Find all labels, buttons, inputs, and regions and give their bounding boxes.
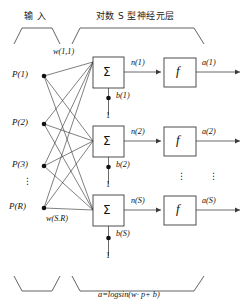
activation-symbol-1: f	[176, 64, 180, 77]
diagram-canvas	[0, 0, 247, 307]
input-label-p1: P(1)	[12, 70, 28, 79]
sum-symbol-1: Σ	[103, 66, 111, 78]
output-column-ellipsis: ⋮	[209, 172, 218, 181]
activation-box-2	[164, 127, 196, 156]
activation-box-3	[164, 196, 196, 225]
input-node-p2	[42, 122, 47, 127]
net-label-2: n(2)	[131, 128, 145, 136]
brace-input-top	[14, 28, 60, 44]
activation-box-1	[164, 58, 196, 87]
net-arrow-3	[124, 208, 161, 213]
layer-formula: a=logsin(w· p+ b)	[98, 291, 160, 299]
input-section-title: 输 入	[24, 12, 46, 21]
output-arrow-3	[196, 208, 240, 213]
neural-network-layer-diagram: 输 入 对数 S 型神经元层 P(1) P(2) P(3) ⋮ P(R) w(1…	[0, 0, 247, 307]
activation-symbol-3: f	[176, 202, 180, 215]
bias-input-3: 1	[106, 252, 110, 260]
activation-column-ellipsis: ⋮	[177, 172, 186, 181]
brace-input-bottom	[14, 276, 60, 291]
bias-node-2	[106, 165, 111, 170]
output-label-1: a(1)	[202, 59, 216, 67]
bias-node-1	[106, 96, 111, 101]
input-node-p1	[42, 74, 47, 79]
net-label-1: n(1)	[131, 59, 145, 67]
output-arrow-2	[196, 139, 240, 144]
bias-label-3: b(S)	[116, 230, 130, 238]
input-nodes	[42, 74, 47, 211]
sum-symbol-2: Σ	[103, 135, 111, 147]
weight-connections	[44, 62, 93, 210]
output-arrow-1	[196, 70, 240, 75]
layer-section-title: 对数 S 型神经元层	[96, 12, 174, 21]
input-label-p3: P(3)	[12, 160, 28, 169]
activation-symbol-2: f	[176, 133, 180, 146]
output-label-3: a(S)	[202, 197, 216, 205]
bias-input-1: 1	[106, 112, 110, 120]
input-node-pr	[42, 206, 47, 211]
weight-label-last: w(S.R)	[46, 215, 68, 223]
input-label-p2: P(2)	[12, 118, 28, 127]
input-node-p3	[42, 164, 47, 169]
bias-input-2: 1	[106, 181, 110, 189]
brace-layer-top	[72, 28, 204, 44]
input-label-pr: P(R)	[9, 202, 26, 211]
bias-node-3	[106, 236, 111, 241]
sum-symbol-3: Σ	[103, 204, 111, 216]
net-arrow-1	[124, 70, 161, 75]
weight-label-first: w(1,1)	[53, 48, 74, 56]
bias-label-2: b(2)	[116, 161, 130, 169]
input-ellipsis: ⋮	[23, 177, 32, 186]
brace-layer-bottom	[72, 276, 204, 291]
net-arrow-2	[124, 139, 161, 144]
output-label-2: a(2)	[202, 128, 216, 136]
bias-label-1: b(1)	[116, 92, 130, 100]
net-label-3: n(S)	[131, 197, 145, 205]
